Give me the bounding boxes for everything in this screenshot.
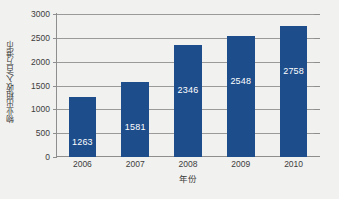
bar[interactable] [121,82,148,157]
y-axis-tick-label: 500 [36,128,50,138]
bar-chart: 物业出租收入/百万港币 050010001500200025003000 126… [0,0,339,199]
y-axis-tick-label: 2500 [31,33,50,43]
x-axis-tick-label: 2007 [109,159,162,169]
bar-value-label: 2548 [227,76,254,86]
x-axis-tick-labels: 20062007200820092010 [56,159,320,172]
bar-value-label: 2346 [174,85,201,95]
y-axis-title-text: 物业出租收入/百万港币 [6,41,15,123]
x-axis-title: 年份 [56,172,320,184]
bar-group[interactable]: 2548 [227,14,254,157]
bar-value-label: 1263 [69,137,96,147]
y-axis-tick-label: 1500 [31,81,50,91]
plot-area: 12631581234625482758 [56,14,320,157]
y-axis-tick-mark [53,157,57,158]
bars-layer: 12631581234625482758 [56,14,320,157]
bar[interactable] [174,45,201,157]
bar-value-label: 1581 [121,122,148,132]
y-axis-title: 物业出租收入/百万港币 [2,0,18,165]
y-axis-tick-label: 2000 [31,57,50,67]
y-axis-tick-label: 3000 [31,9,50,19]
bar-group[interactable]: 2346 [174,14,201,157]
y-axis-tick-label: 1000 [31,104,50,114]
bar-group[interactable]: 1263 [69,14,96,157]
bar-group[interactable]: 2758 [280,14,307,157]
x-axis-tick-label: 2009 [214,159,267,169]
y-axis-tick-labels: 050010001500200025003000 [18,14,52,157]
bar[interactable] [69,97,96,157]
bar-value-label: 2758 [280,66,307,76]
y-axis-tick-label: 0 [45,152,50,162]
bar[interactable] [280,26,307,157]
bar[interactable] [227,36,254,157]
x-axis-tick-label: 2006 [56,159,109,169]
bar-group[interactable]: 1581 [121,14,148,157]
x-axis-tick-label: 2010 [267,159,320,169]
x-axis-tick-label: 2008 [162,159,215,169]
